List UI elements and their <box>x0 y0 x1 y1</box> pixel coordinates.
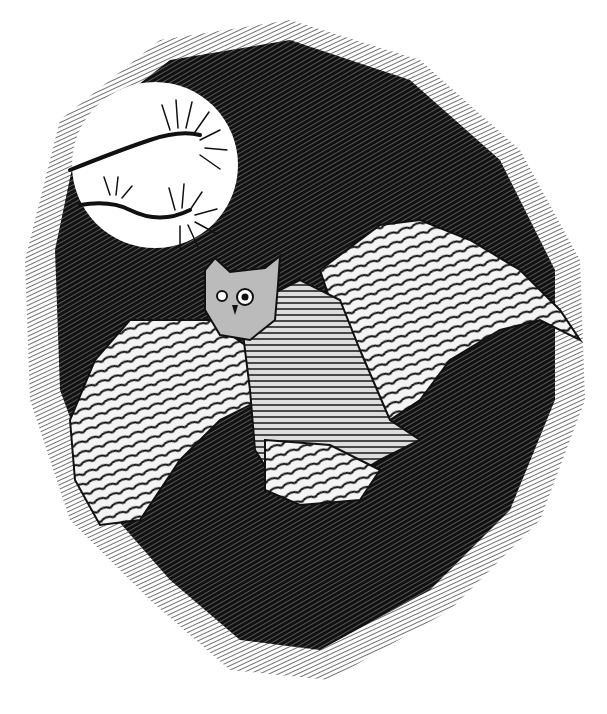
illustration <box>0 0 607 714</box>
owl-eye-left <box>217 291 227 301</box>
owl-illustration-svg <box>0 0 607 714</box>
